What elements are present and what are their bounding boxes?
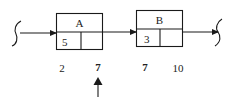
node-a: A 5: [57, 14, 103, 50]
node-a-key: 5: [62, 36, 68, 48]
start-break-squiggle: [12, 21, 21, 46]
linked-list-diagram: A 5 B 3 2 7 7 10: [0, 0, 235, 101]
node-b: B 3: [137, 11, 183, 47]
address-label: 7: [142, 61, 148, 73]
node-b-label: B: [156, 14, 163, 26]
address-label: 2: [59, 62, 65, 74]
address-label: 10: [173, 62, 185, 74]
node-b-key: 3: [144, 33, 150, 45]
address-label: 7: [95, 61, 101, 73]
up-arrow-icon: [94, 77, 103, 97]
node-a-label: A: [76, 17, 84, 29]
